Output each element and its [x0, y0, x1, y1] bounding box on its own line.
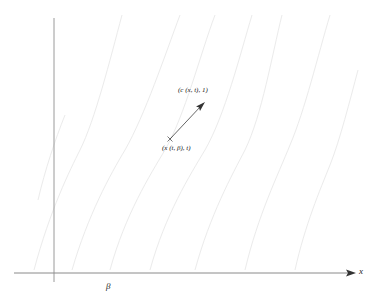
characteristic-curves: [34, 15, 358, 270]
curve-8: [38, 115, 65, 200]
x-axis-label: x: [359, 266, 363, 276]
curve-2: [72, 15, 180, 270]
curve-5: [195, 15, 282, 270]
start-point-label: (x (t, β), t): [162, 144, 191, 152]
beta-tick-label: β: [106, 281, 110, 291]
curve-4: [150, 15, 252, 270]
curve-7: [295, 70, 358, 270]
direction-arrow: [170, 106, 201, 139]
end-point-label: (c (x, t), 1): [178, 86, 208, 94]
curve-6: [245, 15, 330, 270]
curve-1: [34, 15, 122, 270]
